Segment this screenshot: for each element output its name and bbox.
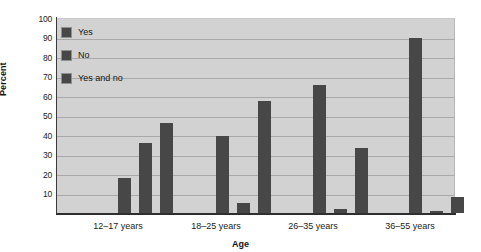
y-axis-tick-label: 50 — [28, 112, 52, 121]
legend-swatch-icon — [61, 50, 72, 61]
bar-chart-figure: Percent 100 90 80 70 60 50 40 30 20 10 Y… — [0, 0, 481, 252]
bar-yes-and-no-36-55 — [451, 197, 464, 213]
bar-yes-12-17 — [118, 178, 131, 213]
legend-label: Yes and no — [78, 74, 123, 83]
bar-yes-36-55 — [409, 38, 422, 214]
bar-no-12-17 — [139, 143, 152, 213]
x-axis-tick-label: 36–55 years — [350, 222, 470, 231]
gridline-30 — [57, 156, 454, 157]
y-axis-tick-label: 90 — [28, 34, 52, 43]
gridline-60 — [57, 97, 454, 98]
bar-yes-and-no-26-35 — [355, 148, 368, 213]
legend-label: Yes — [78, 28, 93, 37]
legend-item-yes-and-no: Yes and no — [61, 68, 181, 88]
bar-yes-26-35 — [313, 85, 326, 213]
y-axis-tick-label: 30 — [28, 151, 52, 160]
y-axis-tick-label: 70 — [28, 73, 52, 82]
legend-label: No — [78, 51, 90, 60]
bar-yes-and-no-18-25 — [258, 101, 271, 213]
gridline-40 — [57, 136, 454, 137]
bar-no-36-55 — [430, 211, 443, 213]
legend-item-no: No — [61, 45, 181, 65]
legend-swatch-icon — [61, 27, 72, 38]
bar-no-26-35 — [334, 209, 347, 213]
y-axis-tick-label: 100 — [28, 15, 52, 24]
y-axis-tick-label: 10 — [28, 190, 52, 199]
x-axis-line — [56, 213, 456, 215]
bar-yes-and-no-12-17 — [160, 123, 173, 213]
legend-item-yes: Yes — [61, 22, 181, 42]
y-axis-tick-label: 80 — [28, 54, 52, 63]
legend-swatch-icon — [61, 73, 72, 84]
bar-no-18-25 — [237, 203, 250, 213]
y-axis-tick-label: 40 — [28, 132, 52, 141]
y-axis-title: Percent — [0, 62, 8, 96]
plot-area: Yes No Yes and no — [57, 18, 455, 213]
bar-yes-18-25 — [216, 136, 229, 213]
gridline-20 — [57, 175, 454, 176]
gridline-10 — [57, 195, 454, 196]
gridline-50 — [57, 117, 454, 118]
y-axis-tick-label: 60 — [28, 93, 52, 102]
legend: Yes No Yes and no — [61, 22, 181, 91]
x-axis-title: Age — [0, 239, 481, 249]
y-axis-tick-label: 20 — [28, 171, 52, 180]
